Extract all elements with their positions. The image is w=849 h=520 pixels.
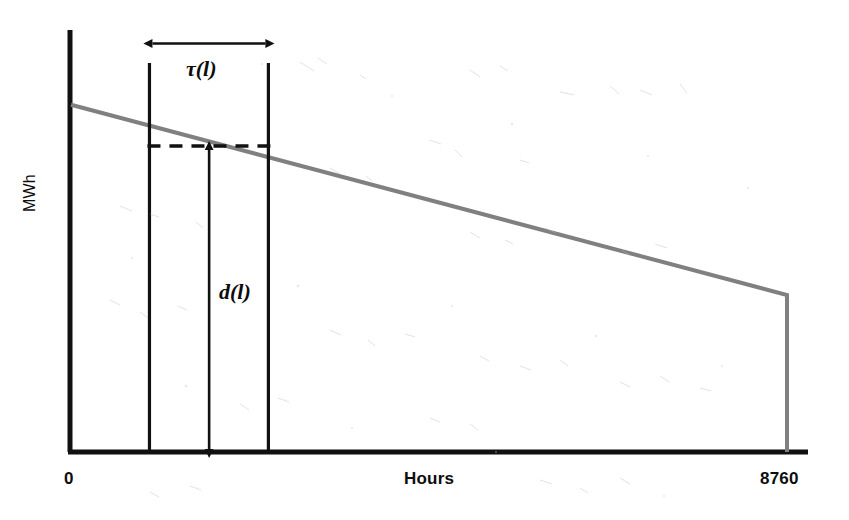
x-axis-title: Hours	[404, 470, 454, 487]
tau-annotation-label: τ(l)	[186, 58, 217, 80]
figure-canvas	[0, 0, 849, 520]
load-duration-curve-figure: MWh 0 Hours 8760 τ(l) d(l)	[0, 0, 849, 520]
d-annotation-label: d(l)	[219, 281, 251, 303]
x-axis-max-label: 8760	[760, 470, 799, 487]
x-axis-min-label: 0	[64, 470, 74, 487]
y-axis-title: MWh	[22, 174, 38, 212]
axis-group	[68, 30, 808, 452]
load-duration-curve-line	[71, 105, 787, 452]
